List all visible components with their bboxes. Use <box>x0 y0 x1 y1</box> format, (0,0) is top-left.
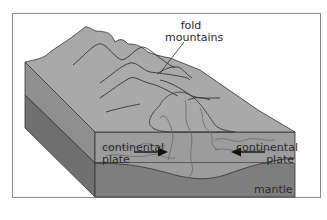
fold-mountains-label: fold mountains <box>165 20 217 44</box>
fold-mountains-label-line2: mountains <box>165 32 217 44</box>
mantle-label: mantle <box>254 184 293 196</box>
right-plate-label-line2: plate <box>236 154 294 166</box>
right-plate-label: continental plate <box>236 142 294 166</box>
left-plate-label-line2: plate <box>102 154 164 166</box>
left-plate-label: continental plate <box>102 142 164 166</box>
